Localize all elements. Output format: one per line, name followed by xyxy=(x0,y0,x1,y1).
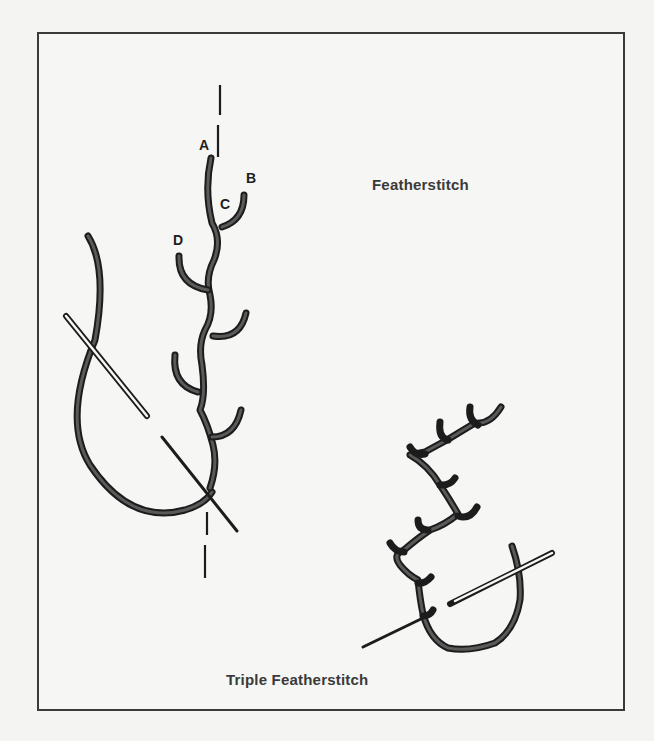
point-label-c: C xyxy=(220,196,230,212)
triple-featherstitch-diagram xyxy=(363,407,552,649)
triple-featherstitch-title: Triple Featherstitch xyxy=(226,671,368,688)
stitch-illustration: .thread-o { fill: none; stroke: #1c1c1c;… xyxy=(0,0,654,741)
featherstitch-chain xyxy=(175,158,246,488)
featherstitch-title: Featherstitch xyxy=(372,176,469,193)
needle-shaft xyxy=(162,437,237,531)
featherstitch-diagram xyxy=(66,85,246,578)
triple-featherstitch-chain xyxy=(390,407,520,649)
point-label-d: D xyxy=(173,232,183,248)
needle-shaft xyxy=(363,618,423,647)
point-label-a: A xyxy=(199,137,209,153)
needle-icon xyxy=(450,553,552,604)
working-thread-loop xyxy=(77,236,212,513)
point-label-b: B xyxy=(246,170,256,186)
